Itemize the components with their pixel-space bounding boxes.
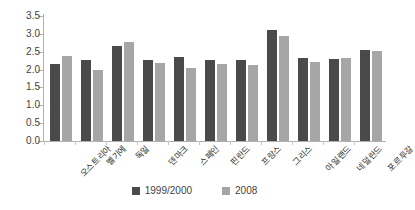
x-axis-tick — [168, 141, 169, 145]
x-axis-tick — [199, 141, 200, 145]
bar-group — [47, 16, 73, 141]
x-axis-tick-label: 독일 — [133, 144, 151, 162]
bar — [50, 64, 60, 141]
x-axis-tick — [44, 141, 45, 145]
x-axis-tick — [230, 141, 231, 145]
plot-area — [44, 16, 385, 141]
bar — [372, 51, 382, 141]
x-axis-tick — [75, 141, 76, 145]
x-axis-tick-label: 스페인 — [198, 144, 221, 167]
x-axis-line — [43, 141, 386, 142]
bar-group — [326, 16, 352, 141]
y-axis-tick-label: 2.5 — [0, 47, 40, 57]
x-axis-tick — [137, 141, 138, 145]
bar — [124, 42, 134, 141]
x-axis-tick — [292, 141, 293, 145]
chart-legend: 1999/20002008 — [0, 186, 389, 196]
legend-item[interactable]: 2008 — [222, 186, 257, 196]
legend-item[interactable]: 1999/2000 — [132, 186, 192, 196]
bar — [360, 50, 370, 141]
x-axis-tick-label: 핀란드 — [229, 144, 252, 167]
bar-group — [171, 16, 197, 141]
bar — [310, 62, 320, 141]
x-axis-tick-label: 포르투갈 — [386, 144, 415, 173]
bar-group — [140, 16, 166, 141]
x-axis-tick-label: 덴마크 — [167, 144, 190, 167]
bar — [329, 59, 339, 141]
bar — [174, 57, 184, 141]
bar — [81, 60, 91, 141]
bar-group — [295, 16, 321, 141]
bar — [341, 58, 351, 141]
y-axis-tick-label: 0.5 — [0, 118, 40, 128]
bar — [186, 68, 196, 141]
bar-group — [202, 16, 228, 141]
bar — [112, 46, 122, 141]
legend-label: 1999/2000 — [145, 186, 192, 196]
legend-swatch-icon — [132, 187, 140, 195]
legend-swatch-icon — [222, 187, 230, 195]
bar — [217, 64, 227, 141]
bar-group — [357, 16, 383, 141]
x-axis-tick-label: 네덜란드 — [355, 144, 384, 173]
x-axis-tick — [354, 141, 355, 145]
bar — [143, 60, 153, 141]
y-axis-tick-label: 2.0 — [0, 65, 40, 75]
bar — [298, 58, 308, 141]
y-axis-tick-label: 3.5 — [0, 11, 40, 21]
bar — [93, 70, 103, 141]
y-axis-tick-label: 1.0 — [0, 100, 40, 110]
bar — [279, 36, 289, 141]
bar-group — [78, 16, 104, 141]
bar-group — [109, 16, 135, 141]
x-axis-tick-label: 그리스 — [291, 144, 314, 167]
x-axis-tick-label: 아일랜드 — [324, 144, 353, 173]
bar — [155, 63, 165, 141]
x-axis-tick — [106, 141, 107, 145]
bar — [62, 56, 72, 141]
y-axis-tick-label: 1.5 — [0, 82, 40, 92]
x-axis-tick — [261, 141, 262, 145]
bar-group — [233, 16, 259, 141]
x-axis-tick-label: 프랑스 — [260, 144, 283, 167]
bar — [205, 60, 215, 141]
legend-label: 2008 — [235, 186, 257, 196]
bar — [248, 65, 258, 141]
bar — [236, 60, 246, 141]
bar-group — [264, 16, 290, 141]
y-axis-tick-label: 0.0 — [0, 136, 40, 146]
x-axis-tick — [323, 141, 324, 145]
bar — [267, 30, 277, 141]
y-axis-tick-label: 3.0 — [0, 29, 40, 39]
